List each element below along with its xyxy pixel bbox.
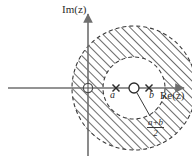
midpoint-marker-icon <box>129 83 139 93</box>
origin-marker-icon <box>83 83 92 92</box>
fraction-denominator: 2 <box>147 128 164 138</box>
point-a-label: a <box>110 90 115 100</box>
midpoint-fraction-annotation: a+b 2 <box>147 117 164 139</box>
complex-plane-annulus-figure: Im(z) Re(z) a b a+b 2 <box>0 0 192 163</box>
imaginary-axis-label: Im(z) <box>62 4 86 15</box>
real-axis-label: Re(z) <box>160 90 184 101</box>
fraction-numerator: a+b <box>147 117 164 128</box>
point-b-label: b <box>149 90 154 100</box>
